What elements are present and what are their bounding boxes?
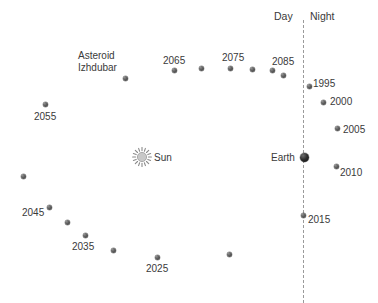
asteroid-position-dot: [281, 73, 286, 78]
asteroid-position-dot: [47, 205, 52, 210]
asteroid-position-dot: [43, 102, 48, 107]
sun-icon: [132, 147, 152, 167]
sun-label: Sun: [154, 152, 172, 164]
asteroid-position-dot: [111, 248, 116, 253]
year-label: 2085: [272, 56, 294, 68]
asteroid-position-dot: [228, 66, 233, 71]
year-label: 2055: [34, 111, 56, 123]
asteroid-position-dot: [250, 67, 255, 72]
asteroid-position-dot: [334, 164, 339, 169]
asteroid-position-dot: [270, 68, 275, 73]
terminator-line: [303, 20, 304, 303]
asteroid-position-dot: [83, 233, 88, 238]
asteroid-position-dot: [227, 252, 232, 257]
year-label: 2010: [340, 167, 362, 179]
asteroid-position-dot: [301, 213, 306, 218]
year-label: 2025: [146, 263, 168, 275]
asteroid-position-dot: [172, 68, 177, 73]
asteroid-name-label: Asteroid Izhdubar: [78, 50, 117, 74]
asteroid-position-dot: [21, 174, 26, 179]
asteroid-position-dot: [155, 255, 160, 260]
asteroid-name-line1: Asteroid: [78, 50, 117, 62]
year-label: 2035: [72, 241, 94, 253]
asteroid-position-dot: [65, 220, 70, 225]
year-label: 2045: [22, 207, 44, 219]
asteroid-position-dot: [321, 100, 326, 105]
day-label: Day: [274, 11, 293, 22]
asteroid-position-dot: [199, 66, 204, 71]
earth-label: Earth: [271, 152, 295, 164]
year-label: 2005: [343, 124, 365, 136]
asteroid-name-line2: Izhdubar: [78, 62, 117, 74]
year-label: 2015: [308, 214, 330, 226]
year-label: 2065: [163, 55, 185, 67]
earth-dot-icon: [300, 153, 309, 162]
asteroid-position-dot: [123, 76, 128, 81]
asteroid-position-dot: [335, 126, 340, 131]
year-label: 2075: [222, 52, 244, 64]
orbit-diagram: Day Night S: [0, 0, 378, 303]
asteroid-position-dot: [307, 84, 312, 89]
year-label: 2000: [330, 96, 352, 108]
year-label: 1995: [313, 78, 335, 90]
night-label: Night: [310, 11, 335, 22]
